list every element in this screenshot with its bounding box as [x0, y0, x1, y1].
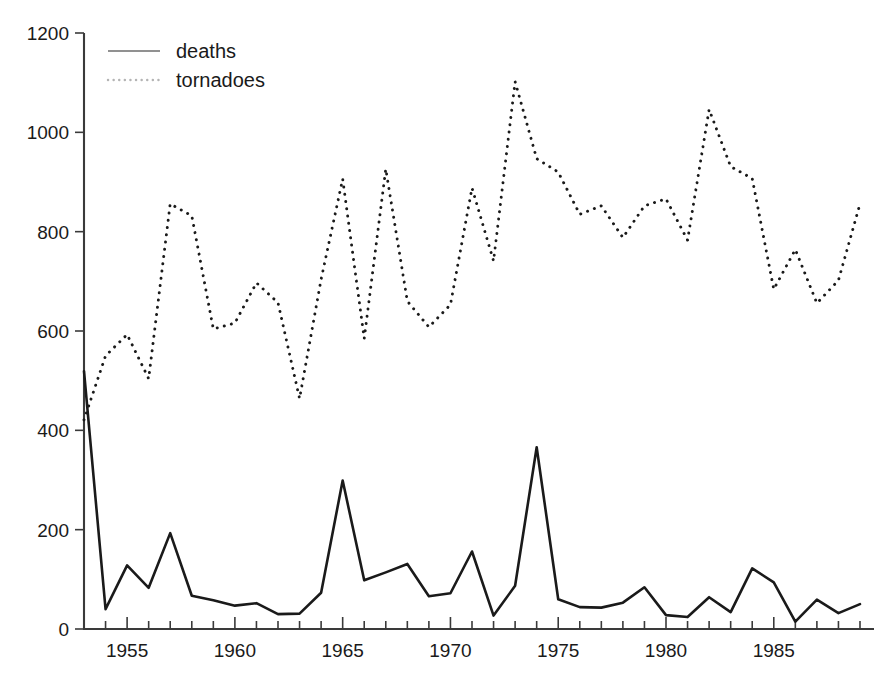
y-tick-label: 1200: [27, 23, 69, 44]
data-series-group: [84, 82, 860, 622]
x-tick-label: 1970: [429, 640, 471, 661]
chart-container: 020040060080010001200 195519601965197019…: [0, 0, 888, 687]
axes-group: 020040060080010001200 195519601965197019…: [27, 23, 874, 661]
y-tick-label: 600: [37, 321, 69, 342]
y-axis-ticks: [75, 33, 84, 629]
x-tick-label: 1960: [214, 640, 256, 661]
x-tick-label: 1965: [322, 640, 364, 661]
series-line-tornadoes: [84, 82, 860, 420]
x-axis-ticks: [106, 617, 860, 629]
y-tick-label: 400: [37, 420, 69, 441]
series-line-deaths: [84, 371, 860, 621]
x-axis-tick-labels: 1955196019651970197519801985: [106, 640, 795, 661]
x-tick-label: 1980: [645, 640, 687, 661]
y-tick-label: 800: [37, 222, 69, 243]
x-tick-label: 1955: [106, 640, 148, 661]
y-tick-label: 1000: [27, 122, 69, 143]
chart-plot-area: 020040060080010001200 195519601965197019…: [0, 0, 888, 687]
axis-lines: [84, 33, 874, 629]
y-tick-label: 200: [37, 520, 69, 541]
x-tick-label: 1975: [537, 640, 579, 661]
legend-label-deaths: deaths: [176, 40, 236, 62]
chart-legend: deaths tornadoes: [108, 40, 265, 91]
y-axis-tick-labels: 020040060080010001200: [27, 23, 69, 640]
legend-label-tornadoes: tornadoes: [176, 69, 265, 91]
y-tick-label: 0: [58, 619, 69, 640]
x-tick-label: 1985: [753, 640, 795, 661]
